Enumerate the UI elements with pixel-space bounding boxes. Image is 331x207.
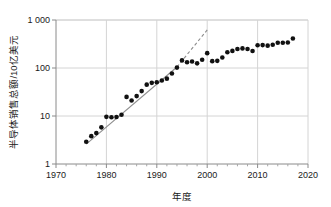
data-point — [190, 59, 195, 64]
x-tick-label: 2000 — [197, 170, 217, 180]
y-tick-label: 10 — [40, 111, 50, 121]
x-tick-label: 2010 — [248, 170, 268, 180]
data-point — [185, 60, 190, 65]
data-point — [260, 43, 265, 48]
data-point — [275, 40, 280, 45]
y-axis-tick-labels: 1101001 000 — [27, 15, 50, 169]
data-point — [230, 49, 235, 54]
x-axis-major-ticks — [56, 164, 308, 168]
x-tick-label: 2020 — [298, 170, 318, 180]
x-tick-label: 1980 — [96, 170, 116, 180]
data-point — [119, 112, 124, 117]
data-point — [134, 94, 139, 99]
data-point — [200, 57, 205, 62]
data-point — [175, 65, 180, 70]
y-tick-label: 1 000 — [27, 15, 50, 25]
data-point — [114, 115, 119, 120]
x-tick-label: 1970 — [46, 170, 66, 180]
data-point — [220, 55, 225, 60]
data-point — [170, 71, 175, 76]
data-point — [270, 42, 275, 47]
x-axis-tick-labels: 197019801990200020102020 — [46, 170, 318, 180]
data-point — [255, 43, 260, 48]
chart-figure: 1101001 000 197019801990200020102020 半导体… — [0, 0, 331, 207]
data-point — [144, 82, 149, 87]
y-axis-title: 半导体销售总额/10亿美元 — [8, 35, 19, 148]
data-point — [139, 89, 144, 94]
data-point — [281, 41, 286, 46]
y-tick-label: 100 — [35, 63, 50, 73]
data-point — [210, 59, 215, 64]
data-point — [286, 40, 291, 45]
data-point — [155, 80, 160, 85]
data-point — [225, 50, 230, 55]
data-point — [94, 131, 99, 136]
data-point — [89, 134, 94, 139]
data-point — [215, 59, 220, 64]
data-point — [84, 140, 89, 145]
data-point — [124, 95, 129, 100]
data-point — [235, 47, 240, 52]
y-axis-major-ticks — [52, 20, 56, 164]
data-point — [291, 36, 296, 41]
y-tick-label: 1 — [45, 159, 50, 169]
data-point — [240, 46, 245, 51]
data-point — [109, 115, 114, 120]
plot-area-background — [56, 20, 308, 164]
data-point — [165, 76, 170, 81]
data-point — [265, 43, 270, 48]
data-point — [104, 115, 109, 120]
data-point — [205, 51, 210, 56]
semiconductor-sales-log-chart: 1101001 000 197019801990200020102020 半导体… — [0, 0, 331, 207]
data-point — [99, 125, 104, 130]
data-point — [160, 78, 165, 83]
data-point — [180, 58, 185, 63]
data-point — [129, 98, 134, 103]
data-point — [245, 47, 250, 52]
data-point — [149, 81, 154, 86]
x-axis-title: 年度 — [172, 191, 192, 202]
x-tick-label: 1990 — [147, 170, 167, 180]
data-point — [195, 61, 200, 66]
data-point — [250, 49, 255, 54]
